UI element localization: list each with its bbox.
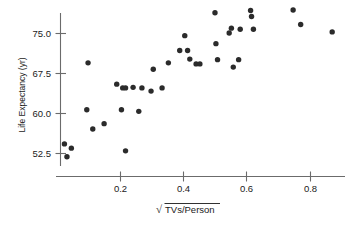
data-point [177,48,182,53]
data-point [166,60,171,65]
data-point [290,7,295,12]
data-point [64,154,69,159]
x-tick-label-0-2: 0.2 [114,183,127,194]
data-points-layer [62,7,335,159]
data-point [251,27,256,32]
y-axis-title: Life Expectancy (yr) [17,57,27,132]
y-tick-label-60: 60.0 [33,108,52,119]
data-point [148,88,153,93]
data-point [139,85,144,90]
data-point [231,64,236,69]
data-point [119,107,124,112]
data-point [84,107,89,112]
data-point [215,57,220,62]
data-point [136,109,141,114]
y-tick-label-75: 75.0 [33,28,52,39]
x-tick-label-0-6: 0.6 [240,183,253,194]
data-point [248,8,253,13]
data-point [123,85,128,90]
data-point [238,27,243,32]
data-point [187,56,192,61]
data-point [229,25,234,30]
data-point [62,141,67,146]
x-axis-title: TVs/Person [165,204,215,215]
data-point [101,121,106,126]
data-point [123,148,128,153]
y-tick-label-67-5: 67.5 [33,68,52,79]
scatter-chart-figure: 75.0 67.5 60.0 52.5 0.2 0.4 0.6 0.8 Life… [0,0,361,226]
data-point [151,67,156,72]
data-point [249,14,254,19]
plot-canvas: 75.0 67.5 60.0 52.5 0.2 0.4 0.6 0.8 Life… [0,0,361,226]
radical-sign-icon: √ [156,203,163,215]
data-point [226,30,231,35]
data-point [130,85,135,90]
data-point [236,57,241,62]
data-point [298,22,303,27]
data-point [69,145,74,150]
data-point [197,61,202,66]
y-tick-label-52-5: 52.5 [33,148,52,159]
data-point [185,48,190,53]
data-point [329,29,334,34]
data-point [182,33,187,38]
data-point [213,41,218,46]
x-axis-title-group: √ TVs/Person [156,203,220,215]
x-tick-label-0-8: 0.8 [304,183,317,194]
data-point [159,85,164,90]
data-point [90,126,95,131]
data-point [85,60,90,65]
x-tick-label-0-4: 0.4 [177,183,190,194]
data-point [212,10,217,15]
data-point [114,81,119,86]
